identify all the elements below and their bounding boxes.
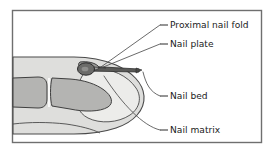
middle-phalanx-bone (13, 77, 47, 108)
label-proximal-nail-fold: Proximal nail fold (170, 20, 249, 30)
diagram-canvas: Proximal nail fold Nail plate Nail bed N… (0, 0, 273, 152)
label-nail-bed: Nail bed (170, 91, 208, 101)
nail-anatomy-figure: Proximal nail fold Nail plate Nail bed N… (0, 0, 273, 152)
label-nail-matrix: Nail matrix (170, 125, 221, 135)
label-nail-plate: Nail plate (170, 39, 214, 49)
finger-cross-section (13, 57, 144, 134)
nail-matrix-highlight (82, 67, 89, 72)
